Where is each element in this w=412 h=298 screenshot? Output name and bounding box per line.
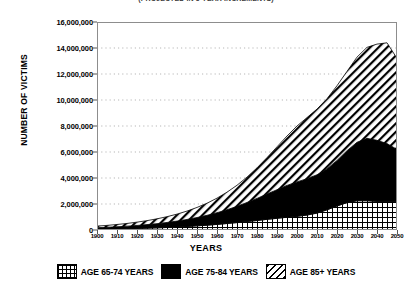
x-tick-mark [217,230,218,234]
legend-item: AGE 75-84 YEARS [161,264,258,279]
y-tick-label: 2,000,000 [61,200,93,209]
y-tick-label: 4,000,000 [61,174,93,183]
legend-swatch [57,264,77,279]
legend-label: AGE 85+ YEARS [290,267,355,277]
x-tick-mark [237,230,238,234]
y-tick-label: 6,000,000 [61,148,93,157]
chart-legend: AGE 65-74 YEARSAGE 75-84 YEARSAGE 85+ YE… [0,264,412,279]
y-tick-label: 8,000,000 [61,122,93,131]
x-tick-mark [377,230,378,234]
x-tick-mark [157,230,158,234]
x-tick-mark [397,230,398,234]
plot-border [97,22,397,230]
x-tick-mark [297,230,298,234]
y-tick-label: 10,000,000 [56,96,93,105]
x-tick-mark [177,230,178,234]
legend-swatch [161,264,181,279]
x-tick-mark [117,230,118,234]
y-tick-label: 16,000,000 [56,18,93,27]
legend-label: AGE 75-84 YEARS [185,267,258,277]
y-tick-label: 14,000,000 [56,44,93,53]
legend-swatch [266,264,286,279]
x-tick-mark [357,230,358,234]
x-tick-mark [317,230,318,234]
x-tick-mark [137,230,138,234]
legend-item: AGE 85+ YEARS [266,264,355,279]
y-axis-label: NUMBER OF VICTIMS [19,30,29,170]
x-tick-mark [97,230,98,234]
x-tick-mark [197,230,198,234]
x-tick-mark [257,230,258,234]
chart-title: (PROJECTED IN 5-YEAR INCREMENTS) [0,0,412,4]
y-tick-label: 12,000,000 [56,70,93,79]
legend-label: AGE 65-74 YEARS [81,267,154,277]
legend-item: AGE 65-74 YEARS [57,264,154,279]
chart-container: (PROJECTED IN 5-YEAR INCREMENTS) NUMBER … [0,0,412,298]
plot-area [97,22,397,230]
x-tick-mark [337,230,338,234]
x-tick-mark [277,230,278,234]
x-axis-label: YEARS [0,243,412,253]
